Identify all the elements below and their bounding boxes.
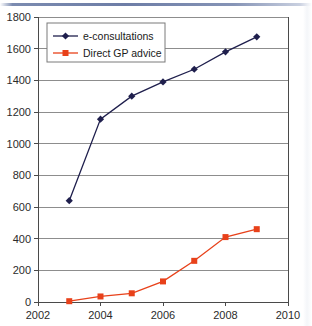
x-tick-label-2004: 2004 bbox=[88, 309, 112, 321]
x-tick-label-2002: 2002 bbox=[26, 309, 50, 321]
legend-marker-2 bbox=[63, 50, 69, 56]
x-tick-label-2006: 2006 bbox=[151, 309, 175, 321]
x-axis-ticks: 20022004200620082010 bbox=[26, 302, 300, 321]
chart-figure: 020040060080010001200140016001800 200220… bbox=[0, 0, 312, 326]
y-tick-label-800: 800 bbox=[13, 169, 31, 181]
data-point-2008-direct-gp-advice bbox=[223, 234, 229, 240]
data-point-2004-direct-gp-advice bbox=[98, 293, 104, 299]
chart-legend: e-consultationsDirect GP advice bbox=[47, 23, 165, 62]
y-axis-ticks: 020040060080010001200140016001800 bbox=[7, 11, 38, 308]
y-tick-label-1400: 1400 bbox=[7, 74, 31, 86]
y-tick-label-400: 400 bbox=[13, 233, 31, 245]
data-point-2006-direct-gp-advice bbox=[160, 278, 166, 284]
legend-label-2: Direct GP advice bbox=[83, 47, 162, 59]
data-point-2003-direct-gp-advice bbox=[66, 298, 72, 304]
y-tick-label-0: 0 bbox=[25, 296, 31, 308]
x-tick-label-2010: 2010 bbox=[276, 309, 300, 321]
y-tick-label-1200: 1200 bbox=[7, 106, 31, 118]
y-tick-label-200: 200 bbox=[13, 264, 31, 276]
legend-label-1: e-consultations bbox=[83, 30, 154, 42]
y-tick-label-600: 600 bbox=[13, 201, 31, 213]
data-point-2009-direct-gp-advice bbox=[254, 226, 260, 232]
data-point-2007-direct-gp-advice bbox=[191, 258, 197, 264]
y-tick-label-1000: 1000 bbox=[7, 138, 31, 150]
data-point-2005-direct-gp-advice bbox=[129, 290, 135, 296]
y-tick-label-1800: 1800 bbox=[7, 11, 31, 23]
y-tick-label-1600: 1600 bbox=[7, 43, 31, 55]
line-chart: 020040060080010001200140016001800 200220… bbox=[0, 0, 312, 326]
x-tick-label-2008: 2008 bbox=[213, 309, 237, 321]
